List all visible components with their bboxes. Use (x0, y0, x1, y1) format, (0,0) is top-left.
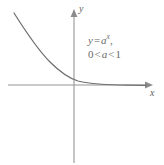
annotation-line-inequality: 0<a<1 (88, 47, 121, 61)
graph-canvas (0, 0, 164, 165)
exponential-decay-figure: y x y=ax, 0<a<1 (0, 0, 164, 165)
annotation-upper-bound: 1 (115, 48, 121, 60)
annotation-lower-bound: 0 (88, 48, 94, 60)
curve-annotation: y=ax, 0<a<1 (88, 33, 121, 61)
annotation-comma: , (110, 34, 113, 46)
x-axis-label: x (150, 88, 154, 98)
y-axis-label: y (79, 4, 83, 14)
annotation-less-than-1: < (94, 48, 102, 60)
annotation-equals-sign: = (93, 34, 101, 46)
y-axis-arrow-icon (71, 9, 78, 17)
exponential-curve (14, 13, 146, 85)
annotation-line-equation: y=ax, (88, 33, 121, 47)
